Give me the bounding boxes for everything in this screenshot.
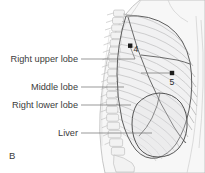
- label-liver: Liver: [58, 128, 78, 138]
- label-middle-lobe: Middle lobe: [31, 82, 78, 92]
- callout-labels: Right upper lobe Middle lobe Right lower…: [11, 54, 78, 138]
- marker-dot-4: [128, 44, 132, 48]
- label-right-upper-lobe: Right upper lobe: [11, 54, 78, 64]
- label-right-lower-lobe: Right lower lobe: [12, 100, 78, 110]
- anatomy-figure-panel: Right upper lobe Middle lobe Right lower…: [0, 0, 205, 173]
- marker-dot-5: [170, 71, 174, 75]
- panel-letter: B: [9, 150, 15, 161]
- marker-label-4: 4: [134, 44, 139, 54]
- marker-label-5: 5: [170, 77, 175, 87]
- liver-outline: [132, 93, 187, 157]
